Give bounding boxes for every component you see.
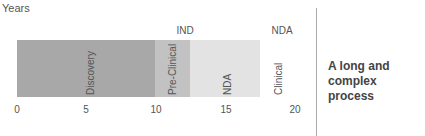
x-tick-15: 15 <box>220 104 231 115</box>
timeline-bar <box>17 40 293 97</box>
x-tick-5: 5 <box>83 104 89 115</box>
segment-label-clinical: Clinical <box>273 63 284 95</box>
annotation-ind: IND <box>176 25 193 36</box>
vertical-divider <box>316 8 317 136</box>
x-tick-0: 0 <box>14 104 20 115</box>
annotation-nda: NDA <box>271 25 292 36</box>
x-tick-20: 20 <box>289 104 300 115</box>
caption-line-1: A long and <box>328 59 423 74</box>
segment-label-nda: NDA <box>222 74 233 95</box>
caption: A long and complex process <box>328 59 423 104</box>
caption-line-2: complex process <box>328 74 423 104</box>
segment-label-discovery: Discovery <box>85 51 96 95</box>
y-axis-label: Years <box>2 2 30 14</box>
segment-label-preclinical: Pre-Clinical <box>167 44 178 95</box>
x-tick-10: 10 <box>150 104 161 115</box>
